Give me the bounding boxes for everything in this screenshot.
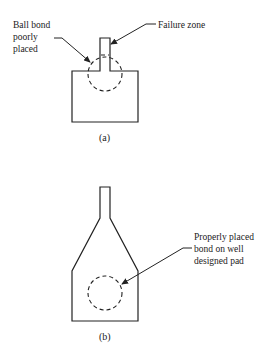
ball-bond-label-line2: poorly	[13, 32, 38, 42]
figure-a-caption: (a)	[99, 132, 110, 144]
ball-bond-b-dashed	[88, 276, 122, 310]
failure-zone-label: Failure zone	[158, 20, 205, 30]
failure-zone-leader-arrow	[111, 24, 156, 44]
figure-a: Ball bond poorly placed Failure zone (a)	[13, 20, 205, 144]
pad-b-outline	[72, 187, 138, 321]
figure-b: Properly placed bond on well designed pa…	[72, 187, 254, 343]
ball-bond-leader-arrow	[54, 38, 90, 62]
proper-bond-label-line2: bond on well	[194, 244, 244, 254]
ball-bond-label-line3: placed	[13, 44, 38, 54]
pad-a-outline	[72, 38, 138, 122]
proper-bond-label-line3: designed pad	[194, 256, 244, 266]
ball-bond-a-dashed	[88, 57, 122, 91]
figure-b-caption: (b)	[99, 331, 111, 343]
proper-bond-leader-arrow	[122, 248, 192, 284]
ball-bond-label-line1: Ball bond	[13, 20, 50, 30]
bond-placement-diagram: Ball bond poorly placed Failure zone (a)…	[0, 0, 271, 355]
proper-bond-label-line1: Properly placed	[194, 232, 254, 242]
